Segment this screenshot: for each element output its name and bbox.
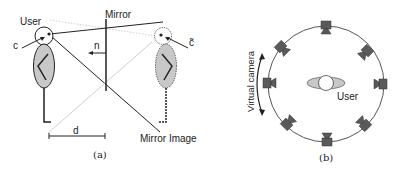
- normal-label: n: [94, 41, 100, 51]
- user-label: User: [20, 17, 41, 27]
- rotation-arrow-head-top: [259, 53, 265, 60]
- camera-icon-bottom: [322, 133, 332, 146]
- user-head-top: [319, 76, 334, 91]
- mirror-label: Mirror: [105, 10, 131, 20]
- rotation-arrow: [257, 56, 262, 113]
- mirror-image-body: [156, 44, 177, 88]
- user-label-b: User: [337, 92, 358, 102]
- normal-arrow-head: [88, 51, 93, 55]
- caption-a: (a): [93, 150, 107, 160]
- figure-a-mirror-geometry: User Mirror n c c̃ d Mirror Image (a): [0, 0, 200, 174]
- user-head: [35, 27, 53, 45]
- user-leg: [44, 88, 51, 122]
- mirror-image-eye: [159, 33, 162, 36]
- caption-b: (b): [319, 153, 333, 163]
- camera-icon-top-right: [358, 44, 374, 60]
- virtual-camera-label: Virtual camera: [246, 51, 256, 112]
- distance-label: d: [73, 126, 79, 136]
- camera-c-label: c: [13, 41, 18, 51]
- camera-icon-top: [321, 21, 331, 34]
- camera-icon-right: [374, 79, 387, 89]
- camera-icon-left: [263, 78, 276, 88]
- rotation-arrow-head-bottom: [259, 109, 265, 116]
- user-eye: [47, 32, 50, 35]
- camera-icon-bottom-right: [356, 116, 372, 132]
- dotted-reflection-line: [48, 42, 152, 133]
- figure-b-virtual-cameras: User Virtual camera (b): [200, 0, 396, 174]
- user-body: [34, 44, 55, 88]
- mirror-image-leg: [159, 88, 166, 122]
- mirror-image-head: [155, 28, 172, 45]
- mirror-image-label: Mirror Image: [140, 134, 197, 144]
- camera-ring-diagram: [200, 0, 396, 174]
- camera-c-tilde-label: c̃: [189, 38, 194, 48]
- camera-icon-bottom-left: [280, 115, 296, 131]
